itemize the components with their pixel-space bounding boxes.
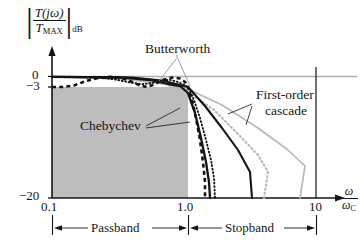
y-tick-label-minus3: −3 [26, 79, 40, 93]
band-label-passband: Passband [91, 221, 139, 235]
x-tick-label-1.0: 1.0 [177, 200, 193, 214]
passband-arrowhead-left [54, 225, 62, 230]
annotation-first-order-cascade-line2: cascade [265, 104, 307, 118]
stopband-arrowhead-right [307, 225, 315, 230]
x-axis-denominator-sub: C [350, 204, 355, 213]
annotation-chebychev: Chebychev [80, 119, 141, 133]
y-axis-unit: dB [72, 24, 83, 34]
x-tick-label-0.1: 0.1 [41, 200, 57, 214]
y-axis-label: | T(jω) TMAX |dB [26, 6, 83, 36]
x-axis-fraction: ω ωC [340, 185, 358, 213]
passband-arrowhead-right [179, 225, 187, 230]
x-axis-numerator: ω [340, 185, 358, 199]
y-axis-denominator-main: T [36, 20, 43, 35]
x-axis-label: ω ωC [340, 185, 358, 213]
y-axis-denominator-sub: MAX [43, 26, 63, 36]
annotation-butterworth: Butterworth [145, 42, 210, 56]
filter-response-figure: | T(jω) TMAX |dB 0 −3 −20 0.1 1.0 10 ω ω… [0, 0, 364, 247]
band-label-stopband: Stopband [225, 221, 274, 235]
leader-butterworth-left [159, 59, 176, 81]
x-axis-denominator: ωC [340, 199, 358, 214]
y-axis-fraction: T(jω) TMAX [33, 6, 66, 36]
x-tick-label-10: 10 [309, 200, 322, 214]
y-axis-denominator: TMAX [33, 21, 66, 36]
shaded-passband-region [52, 87, 188, 198]
y-axis-arrowhead [48, 46, 55, 56]
annotation-first-order-cascade-line1: First-order [256, 88, 314, 102]
left-modulus-bar: | [26, 7, 33, 34]
stopband-arrowhead-left [190, 225, 198, 230]
y-axis-numerator: T(jω) [33, 6, 66, 21]
y-tick-label-minus20: −20 [19, 189, 39, 203]
leader-first-order-upper [228, 104, 252, 114]
